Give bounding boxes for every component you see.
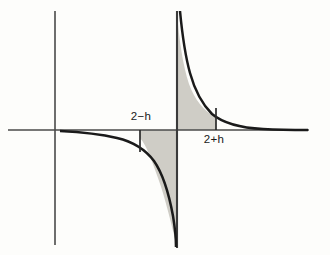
- left-branch-shaded-area: [140, 130, 177, 246]
- graph-canvas: 2−h 2+h: [0, 0, 330, 255]
- function-graph-figure: 2−h 2+h: [0, 0, 330, 255]
- right-bound-label: 2+h: [204, 133, 225, 145]
- left-bound-label: 2−h: [131, 110, 152, 122]
